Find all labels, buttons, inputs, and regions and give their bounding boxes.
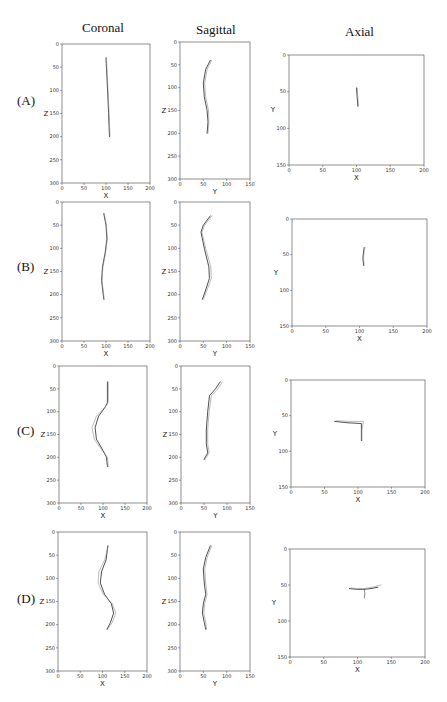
y-tick-label: 100	[279, 287, 289, 293]
x-tick-label: 100	[355, 328, 365, 334]
x-tick-label: 0	[179, 505, 182, 511]
y-tick-label: 300	[167, 338, 177, 344]
y-tick-label: 150	[277, 654, 287, 660]
x-tick-label: 100	[222, 343, 232, 349]
x-tick-label: 150	[245, 181, 255, 187]
y-tick-label: 250	[167, 645, 177, 651]
y-tick-label: 0	[56, 199, 59, 205]
y-tick-label: 250	[167, 153, 177, 159]
panel-c-sagittal: 050100150050100150200250300YZ	[163, 363, 255, 520]
x-tick-label: 100	[101, 185, 111, 191]
y-tick-label: 300	[168, 500, 178, 506]
x-tick-label: 50	[77, 673, 83, 679]
y-tick-label: 100	[276, 125, 286, 131]
x-tick-label: 0	[178, 343, 181, 349]
panel-a-sagittal: 050100150050100150200250300YZ	[162, 39, 255, 196]
plot-frame	[181, 366, 250, 503]
x-tick-label: 100	[98, 673, 108, 679]
y-tick-label: 0	[285, 377, 288, 383]
panel-b-sagittal: 050100150050100150200250300YZ	[162, 199, 255, 358]
y-tick-label: 0	[174, 529, 177, 535]
y-tick-label: 300	[49, 180, 59, 186]
y-tick-label: 100	[167, 575, 177, 581]
y-tick-label: 300	[167, 176, 177, 182]
y-tick-label: 150	[167, 107, 177, 113]
x-tick-label: 100	[222, 181, 232, 187]
x-tick-label: 0	[287, 167, 290, 173]
x-tick-label: 50	[78, 505, 84, 511]
y-tick-label: 100	[46, 408, 56, 414]
y-tick-label: 50	[171, 62, 177, 68]
plot-frame	[292, 219, 427, 326]
figure-canvas: 050100150200050100150200250300XZ05010015…	[0, 0, 447, 702]
x-tick-label: 150	[387, 489, 397, 495]
plot-frame	[58, 532, 147, 671]
y-tick-label: 50	[282, 412, 288, 418]
x-axis-label: X	[104, 350, 109, 358]
x-tick-label: 200	[422, 328, 432, 334]
x-tick-label: 0	[178, 673, 181, 679]
y-tick-label: 250	[49, 157, 59, 163]
y-tick-label: 0	[53, 363, 56, 369]
plot-frame	[59, 366, 147, 503]
x-tick-label: 150	[120, 673, 130, 679]
x-tick-label: 150	[245, 673, 255, 679]
x-tick-label: 150	[120, 505, 130, 511]
y-tick-label: 50	[53, 222, 59, 228]
panel-d-axial: 050100150200050100150XY	[271, 546, 430, 674]
y-tick-label: 0	[174, 199, 177, 205]
x-tick-label: 50	[200, 673, 206, 679]
x-tick-label: 50	[81, 343, 87, 349]
y-tick-label: 0	[283, 52, 286, 58]
y-tick-label: 250	[45, 645, 55, 651]
y-axis-label: Z	[40, 598, 45, 606]
x-tick-label: 50	[323, 328, 329, 334]
y-tick-label: 150	[46, 431, 56, 437]
x-tick-label: 0	[60, 343, 63, 349]
y-axis-label: Y	[273, 269, 279, 277]
panel-b-coronal: 050100150200050100150200250300XZ	[44, 199, 155, 358]
x-tick-label: 150	[388, 328, 398, 334]
x-axis-label: X	[100, 680, 105, 688]
x-tick-label: 150	[245, 505, 255, 511]
x-tick-label: 0	[290, 328, 293, 334]
plot-frame	[180, 202, 250, 341]
x-tick-label: 150	[386, 659, 396, 665]
y-axis-label: Z	[44, 268, 49, 276]
x-tick-label: 50	[321, 489, 327, 495]
y-tick-label: 150	[276, 162, 286, 168]
x-tick-label: 200	[419, 167, 429, 173]
y-axis-label: Z	[44, 110, 49, 118]
x-axis-label: X	[354, 174, 359, 182]
y-tick-label: 150	[167, 598, 177, 604]
y-tick-label: 250	[49, 315, 59, 321]
y-tick-label: 100	[277, 618, 287, 624]
x-tick-label: 100	[222, 673, 232, 679]
x-axis-label: X	[101, 512, 106, 520]
y-tick-label: 50	[171, 222, 177, 228]
y-tick-label: 200	[167, 291, 177, 297]
x-tick-label: 100	[353, 489, 363, 495]
y-axis-label: Z	[163, 431, 168, 439]
y-tick-label: 50	[283, 251, 289, 257]
y-tick-label: 100	[278, 448, 288, 454]
y-tick-label: 200	[167, 621, 177, 627]
x-tick-label: 0	[56, 673, 59, 679]
panel-a-coronal: 050100150200050100150200250300XZ	[44, 41, 155, 200]
x-tick-label: 150	[123, 343, 133, 349]
y-tick-label: 150	[49, 110, 59, 116]
x-tick-label: 100	[353, 659, 363, 665]
y-tick-label: 50	[49, 552, 55, 558]
x-axis-label: Y	[212, 188, 218, 196]
x-tick-label: 100	[222, 505, 232, 511]
y-tick-label: 50	[280, 88, 286, 94]
panel-d-coronal: 050100150200050100150200250300XZ	[40, 529, 152, 688]
y-axis-label: Y	[272, 430, 278, 438]
panel-c-axial: 050100150200050100150XY	[272, 377, 430, 504]
y-tick-label: 300	[46, 500, 56, 506]
y-tick-label: 150	[167, 268, 177, 274]
x-tick-label: 150	[385, 167, 395, 173]
y-tick-label: 50	[53, 64, 59, 70]
x-tick-label: 200	[420, 489, 430, 495]
y-tick-label: 50	[281, 582, 287, 588]
